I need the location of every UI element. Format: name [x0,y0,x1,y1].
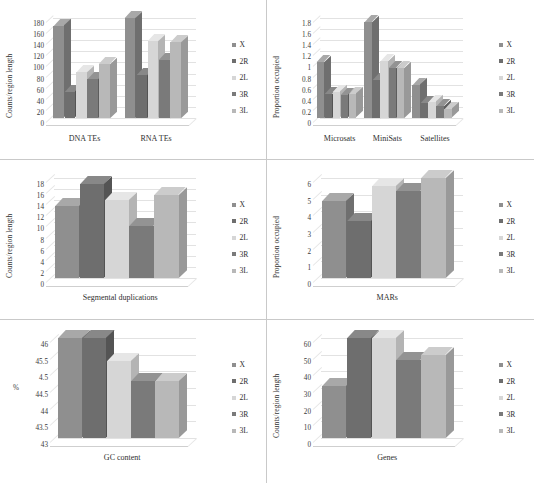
legend-item-3l[interactable]: 3L [232,266,248,275]
bar [389,68,396,118]
legend-swatch-icon [232,379,236,383]
y-axis-tick: 4 [307,216,311,223]
legend-item-2r[interactable]: 2R [499,57,515,66]
legend-item-2r[interactable]: 2R [232,57,248,66]
bar-face [159,60,170,118]
bar-face [372,338,396,438]
bar-face [397,68,404,118]
legend-item-2r[interactable]: 2R [232,377,248,386]
legend-item-3r[interactable]: 3R [499,250,515,259]
y-axis-tick: 44.5 [35,392,48,399]
panel-satellites: Proportion occupied00.20.40.60.811.21.41… [267,0,534,160]
plot-area [46,18,196,125]
legend-item-3r[interactable]: 3R [232,250,248,259]
legend-item-3l[interactable]: 3L [499,106,515,115]
chart-gc-content: %4343.54444.54.545.546GC contentX2R2L3R3… [0,320,267,483]
legend-item-2r[interactable]: 2R [499,377,515,386]
legend-item-x[interactable]: X [232,360,245,369]
bar-face [148,41,159,118]
bar-face [372,80,379,118]
legend-item-3l[interactable]: 3L [232,106,248,115]
bar-series-group [46,18,196,125]
bar-side [179,187,187,278]
legend-item-3l[interactable]: 3L [499,266,515,275]
legend-item-2l[interactable]: 2L [232,393,248,402]
legend-item-3l[interactable]: 3L [499,426,515,435]
panel-transposable-elements: Counts/region length02040608010012014016… [0,0,267,160]
bar [159,60,170,118]
legend-swatch-icon [232,363,236,367]
legend-item-3l[interactable]: 3L [232,426,248,435]
y-axis-tick: 80 [37,77,44,84]
bar [380,61,387,118]
bar-face [99,64,110,118]
legend: X2R2L3R3L [232,320,267,483]
legend-item-3r[interactable]: 3R [232,410,248,419]
legend-label: 3L [507,106,515,115]
bar-face [58,338,82,438]
legend-label: 3L [507,266,515,275]
legend-item-2l[interactable]: 2L [499,233,515,242]
legend-item-3r[interactable]: 3R [499,90,515,99]
legend-item-2l[interactable]: 2L [232,73,248,82]
legend-swatch-icon [499,109,503,113]
bar-face [55,206,79,278]
legend-item-2l[interactable]: 2L [499,393,515,402]
bar [129,226,153,278]
bar-side [446,170,454,277]
bar-face [347,221,371,278]
bar-face [396,360,420,438]
legend-item-3r[interactable]: 3R [499,410,515,419]
bar [317,62,324,118]
bar-side [356,87,363,118]
legend-item-x[interactable]: X [232,40,245,49]
bar-side [404,61,411,118]
chart-segmental-duplications: Counts/region length024681012141618Segme… [0,160,267,319]
legend-item-x[interactable]: X [499,360,512,369]
bar-face [76,72,87,118]
bar [436,106,443,118]
bar [87,79,98,118]
legend-item-x[interactable]: X [232,200,245,209]
bar [136,75,147,118]
bar-face [107,361,131,438]
legend-label: 3R [240,250,249,259]
legend-item-x[interactable]: X [499,200,512,209]
legend-label: 3R [507,410,516,419]
y-axis-tick: 0 [307,442,311,449]
bar-face [83,338,107,438]
legend-item-2l[interactable]: 2L [232,233,248,242]
y-axis-tick-labels: 020406080100120140160180 [14,0,44,159]
bar [421,178,445,278]
legend-label: 2R [507,377,516,386]
y-axis-tick: 1 [307,266,311,273]
plot-area [50,338,196,446]
axis-baseline [50,446,188,447]
bar-face [136,75,147,118]
bar [333,92,340,118]
legend-label: X [507,360,512,369]
bar [170,42,181,118]
y-axis-tick: 3 [307,232,311,239]
bar [412,85,419,118]
x-axis-label: Microsats [324,134,356,143]
panel-segmental-duplications: Counts/region length024681012141618Segme… [0,160,267,320]
chart-transposable-elements: Counts/region length02040608010012014016… [0,0,267,159]
bar-side [181,36,188,118]
legend-item-2l[interactable]: 2L [499,73,515,82]
bar-face [322,386,346,438]
legend-item-2r[interactable]: 2R [499,217,515,226]
legend-label: 2L [240,73,248,82]
bar-side [110,57,117,117]
y-axis-tick: 0.8 [302,77,311,84]
legend-item-2r[interactable]: 2R [232,217,248,226]
legend-item-x[interactable]: X [499,40,512,49]
legend-label: 3L [507,426,515,435]
x-axis-label: Satellites [420,134,449,143]
y-axis-tick: 18 [37,182,44,189]
legend-item-3r[interactable]: 3R [232,90,248,99]
x-axis-label: GC content [104,453,141,462]
legend-label: 3R [240,90,249,99]
bar-series-group [313,178,463,286]
bar [58,338,82,438]
